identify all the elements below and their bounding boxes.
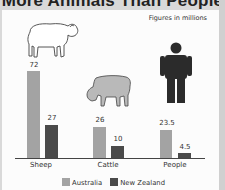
value-label-people-new-zealand: 4.5 [173, 143, 197, 151]
legend-swatch-australia [62, 178, 70, 186]
legend-label-australia: Australia [72, 179, 102, 187]
units-note: Figures in millions [149, 14, 207, 22]
sheep-icon [24, 20, 80, 62]
legend: Australia New Zealand [2, 178, 219, 187]
bar-sheep-new-zealand [45, 125, 58, 158]
bar-people-australia [160, 130, 172, 158]
x-axis-baseline [15, 158, 205, 159]
legend-label-new-zealand: New Zealand [120, 179, 165, 187]
legend-swatch-new-zealand [110, 178, 118, 186]
value-label-people-australia: 23.5 [155, 119, 179, 127]
chart-panel: Figures in millions 72 27 26 10 23.5 4.5… [2, 10, 219, 190]
cow-icon [84, 74, 132, 110]
bar-cattle-australia [93, 127, 106, 158]
value-label-sheep-new-zealand: 27 [40, 114, 64, 122]
category-label-cattle: Cattle [88, 161, 128, 169]
value-label-cattle-australia: 26 [88, 116, 112, 124]
bar-cattle-new-zealand [111, 146, 124, 158]
category-label-sheep: Sheep [21, 161, 61, 169]
page-edge [219, 0, 225, 190]
person-icon [159, 42, 193, 104]
bar-sheep-australia [27, 71, 40, 158]
value-label-sheep-australia: 72 [22, 61, 46, 69]
category-label-people: People [155, 161, 195, 169]
value-label-cattle-new-zealand: 10 [106, 135, 130, 143]
